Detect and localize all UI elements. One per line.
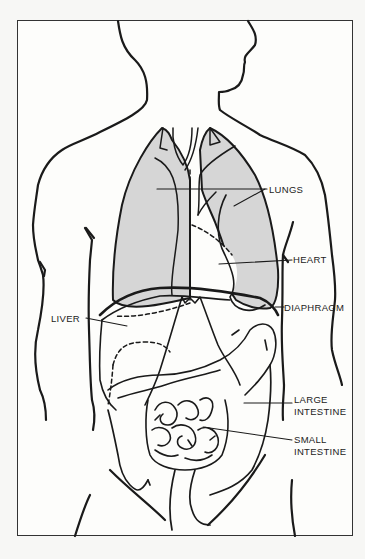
liver-leader xyxy=(86,318,127,326)
abdominal-organs xyxy=(100,297,276,410)
label-diaphragm: DIAPHRAGM xyxy=(284,302,344,313)
large-intestine xyxy=(108,365,271,530)
label-lungs: LUNGS xyxy=(269,184,303,195)
label-small-intestine-line2: INTESTINE xyxy=(294,446,346,457)
stomach-dashed xyxy=(108,342,170,405)
label-large-intestine-line2: INTESTINE xyxy=(294,406,346,417)
lungs-shape xyxy=(113,128,278,309)
label-large-intestine-line1: LARGE xyxy=(294,394,328,405)
label-small-intestine-line1: SMALL xyxy=(294,434,327,445)
label-heart: HEART xyxy=(293,254,327,265)
torso-illustration xyxy=(0,0,365,559)
label-liver: LIVER xyxy=(51,313,80,324)
small-intestine xyxy=(146,398,228,470)
